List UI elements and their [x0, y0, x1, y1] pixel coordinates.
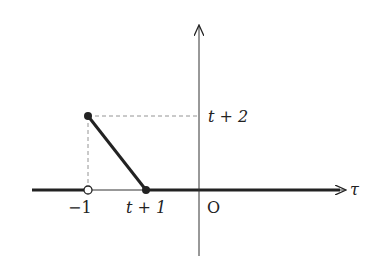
tick-label-t-plus-one: t + 1 [126, 198, 166, 217]
graph-canvas: τ O −1 t + 1 t + 2 [0, 0, 391, 270]
diagonal-segment [88, 116, 146, 190]
tau-axis-label: τ [350, 180, 360, 199]
filled-point-t-plus-one [142, 186, 150, 194]
tick-label-minus-one: −1 [68, 198, 92, 217]
tick-label-t-plus-two: t + 2 [208, 107, 248, 126]
origin-label: O [207, 198, 220, 217]
open-point-minus-one [84, 186, 92, 194]
filled-point-top [84, 112, 92, 120]
